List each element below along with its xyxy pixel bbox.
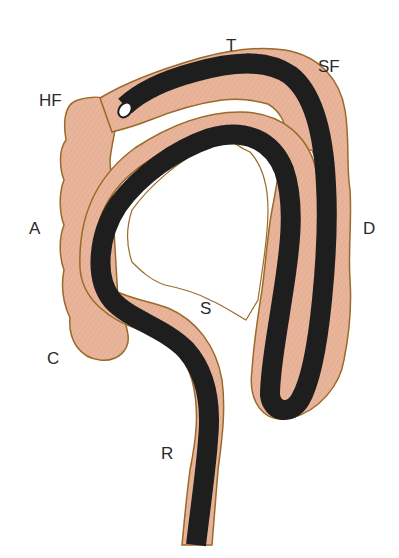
label-rectum: R xyxy=(161,445,173,462)
colonoscopy-diagram: T SF HF A D S C R xyxy=(0,0,399,558)
label-descending: D xyxy=(363,220,375,237)
label-sigmoid: S xyxy=(200,300,211,317)
label-ascending: A xyxy=(29,220,40,237)
label-hepatic-flexure: HF xyxy=(39,92,62,109)
label-transverse: T xyxy=(226,37,236,54)
label-cecum: C xyxy=(47,350,59,367)
label-splenic-flexure: SF xyxy=(318,58,340,75)
